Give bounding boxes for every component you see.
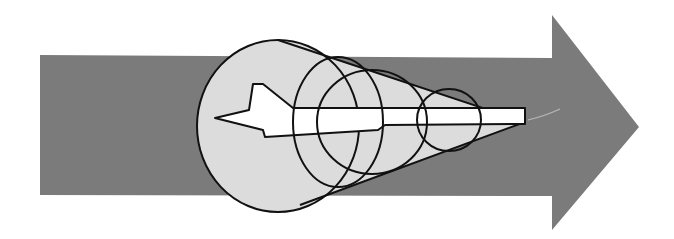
diagram-canvas [0,0,674,239]
diagram-svg [0,0,674,239]
